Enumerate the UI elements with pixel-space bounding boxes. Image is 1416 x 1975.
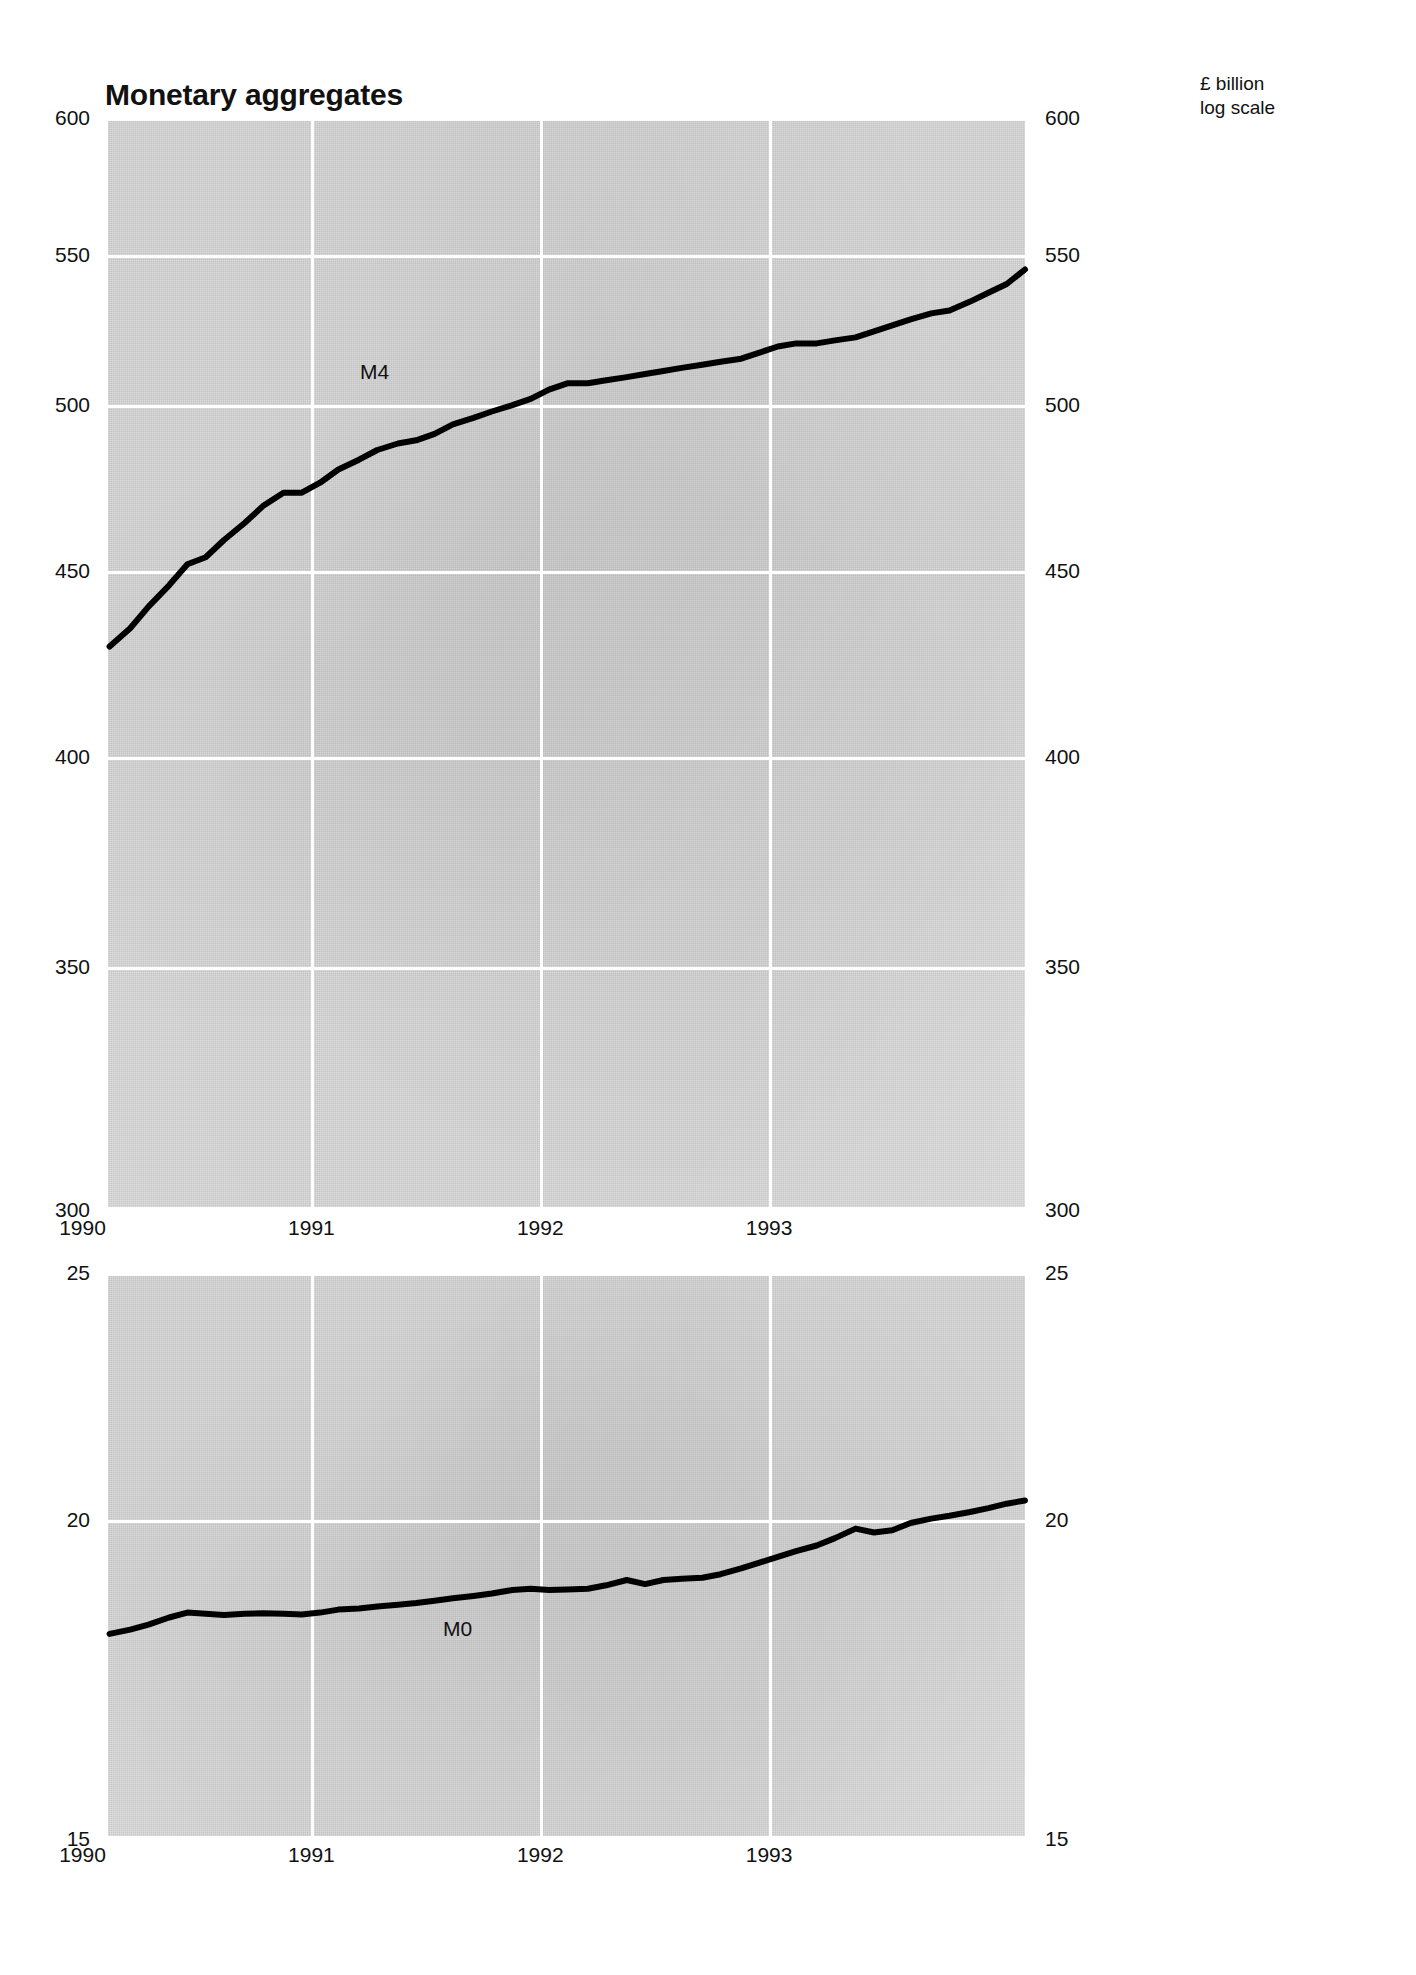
ytick-right-20: 20 — [1045, 1508, 1125, 1532]
xtick-m4-1991: 1991 — [251, 1216, 371, 1240]
xtick-m4-1990: 1990 — [23, 1216, 143, 1240]
chart-m0: M0 25 20 15 25 20 15 1990 1991 1992 1993 — [105, 1273, 1025, 1839]
ytick-right-450: 450 — [1045, 559, 1125, 583]
xtick-m4-1993: 1993 — [709, 1216, 829, 1240]
ytick-left-25: 25 — [10, 1261, 90, 1285]
series-m4 — [105, 118, 1025, 1210]
ytick-left-450: 450 — [10, 559, 90, 583]
xtick-m0-1993: 1993 — [709, 1843, 829, 1867]
xtick-m0-1992: 1992 — [480, 1843, 600, 1867]
ytick-left-400: 400 — [10, 745, 90, 769]
ytick-right-300: 300 — [1045, 1198, 1125, 1222]
chart-m4: M4 600 550 500 450 400 350 300 600 550 5… — [105, 118, 1025, 1210]
chart-page: Monetary aggregates £ billion log scale … — [0, 0, 1416, 1975]
ytick-right-550: 550 — [1045, 243, 1125, 267]
series-m4-path — [110, 270, 1025, 647]
series-m0 — [105, 1273, 1025, 1839]
ytick-left-550: 550 — [10, 243, 90, 267]
ytick-right-600: 600 — [1045, 106, 1125, 130]
ytick-right-400: 400 — [1045, 745, 1125, 769]
series-m0-path — [110, 1501, 1025, 1634]
xtick-m0-1990: 1990 — [23, 1843, 143, 1867]
ytick-left-600: 600 — [10, 106, 90, 130]
series-label-m4: M4 — [360, 360, 389, 384]
xtick-m0-1991: 1991 — [251, 1843, 371, 1867]
ytick-left-500: 500 — [10, 393, 90, 417]
units-annotation: £ billion log scale — [1200, 72, 1275, 120]
ytick-left-350: 350 — [10, 955, 90, 979]
units-scale-label: log scale — [1200, 96, 1275, 120]
ytick-right-350: 350 — [1045, 955, 1125, 979]
series-label-m0: M0 — [443, 1617, 472, 1641]
ytick-right-500: 500 — [1045, 393, 1125, 417]
ytick-left-20: 20 — [10, 1508, 90, 1532]
xtick-m4-1992: 1992 — [480, 1216, 600, 1240]
units-currency-label: £ billion — [1200, 72, 1275, 96]
ytick-right-15: 15 — [1045, 1827, 1125, 1851]
page-title: Monetary aggregates — [105, 78, 403, 112]
ytick-right-25: 25 — [1045, 1261, 1125, 1285]
